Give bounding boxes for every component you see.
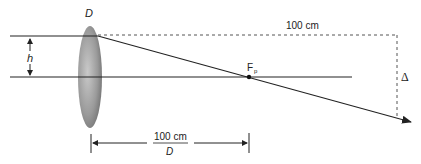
refracted-ray xyxy=(98,36,411,122)
height-label: h xyxy=(27,52,33,64)
top-distance-label: 100 cm xyxy=(286,20,319,31)
focal-point-label: Fp xyxy=(247,62,258,74)
delta-label: Δ xyxy=(401,70,409,84)
focal-point xyxy=(247,75,251,79)
bottom-numerator: 100 cm xyxy=(154,131,187,142)
bottom-denominator: D xyxy=(166,146,173,157)
lens-diagram: D h 100 cm Fp Δ 100 cm D xyxy=(0,0,421,164)
lens-label: D xyxy=(85,7,93,19)
